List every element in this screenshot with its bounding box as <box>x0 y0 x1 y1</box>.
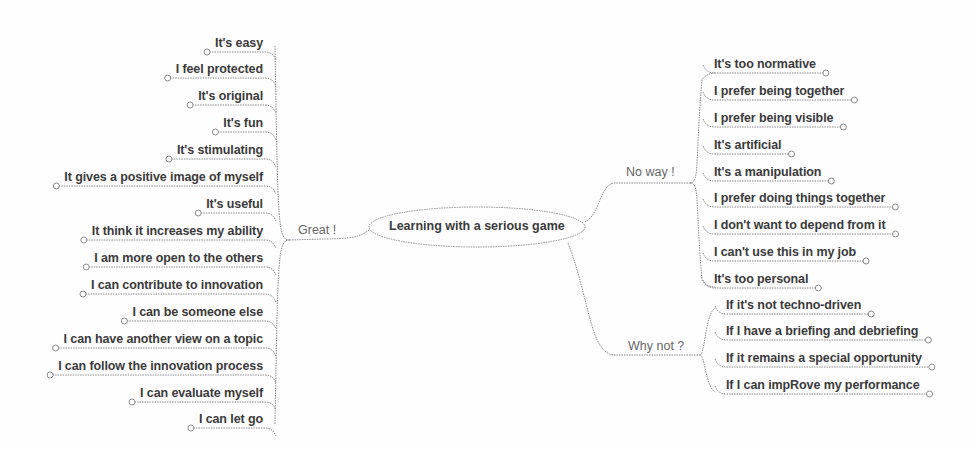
branch-why-not[interactable]: Why not ? <box>628 339 684 353</box>
no-way-item[interactable]: I can't use this in my job <box>714 245 856 259</box>
mind-map-canvas: Learning with a serious game Great ! No … <box>0 0 975 449</box>
branch-no-way[interactable]: No way ! <box>626 165 675 179</box>
no-way-item[interactable]: I prefer being visible <box>714 111 833 125</box>
no-way-item[interactable]: I don't want to depend from it <box>714 218 885 232</box>
why-not-item[interactable]: If it's not techno-driven <box>726 298 861 312</box>
why-not-item[interactable]: If I have a briefing and debriefing <box>726 324 918 338</box>
no-way-item[interactable]: It's a manipulation <box>714 165 821 179</box>
no-way-item[interactable]: I prefer being together <box>714 84 844 98</box>
great-item[interactable]: I can be someone else <box>132 305 263 319</box>
no-way-item[interactable]: It's too normative <box>714 57 816 71</box>
no-way-item[interactable]: It's artificial <box>714 138 781 152</box>
great-item[interactable]: I can have another view on a topic <box>64 332 263 346</box>
why-not-item[interactable]: If I can impRove my performance <box>726 378 920 392</box>
great-item[interactable]: I feel protected <box>176 62 263 76</box>
great-item[interactable]: It's easy <box>215 36 263 50</box>
great-item[interactable]: It's fun <box>223 116 263 130</box>
root-node[interactable]: Learning with a serious game <box>389 219 565 233</box>
branch-great[interactable]: Great ! <box>298 223 336 237</box>
no-way-item[interactable]: It's too personal <box>714 272 808 286</box>
no-way-item[interactable]: I prefer doing things together <box>714 191 885 205</box>
great-item[interactable]: I can let go <box>199 412 263 426</box>
great-item[interactable]: I can follow the innovation process <box>58 359 263 373</box>
why-not-item[interactable]: If it remains a special opportunity <box>726 351 922 365</box>
great-item[interactable]: It think it increases my ability <box>92 224 263 238</box>
great-item[interactable]: I can evaluate myself <box>140 386 263 400</box>
great-item[interactable]: It's stimulating <box>177 143 263 157</box>
great-item[interactable]: It's useful <box>206 197 263 211</box>
great-item[interactable]: It's original <box>198 89 263 103</box>
great-item[interactable]: It gives a positive image of myself <box>64 170 263 184</box>
great-item[interactable]: I can contribute to innovation <box>91 278 263 292</box>
great-item[interactable]: I am more open to the others <box>94 251 263 265</box>
